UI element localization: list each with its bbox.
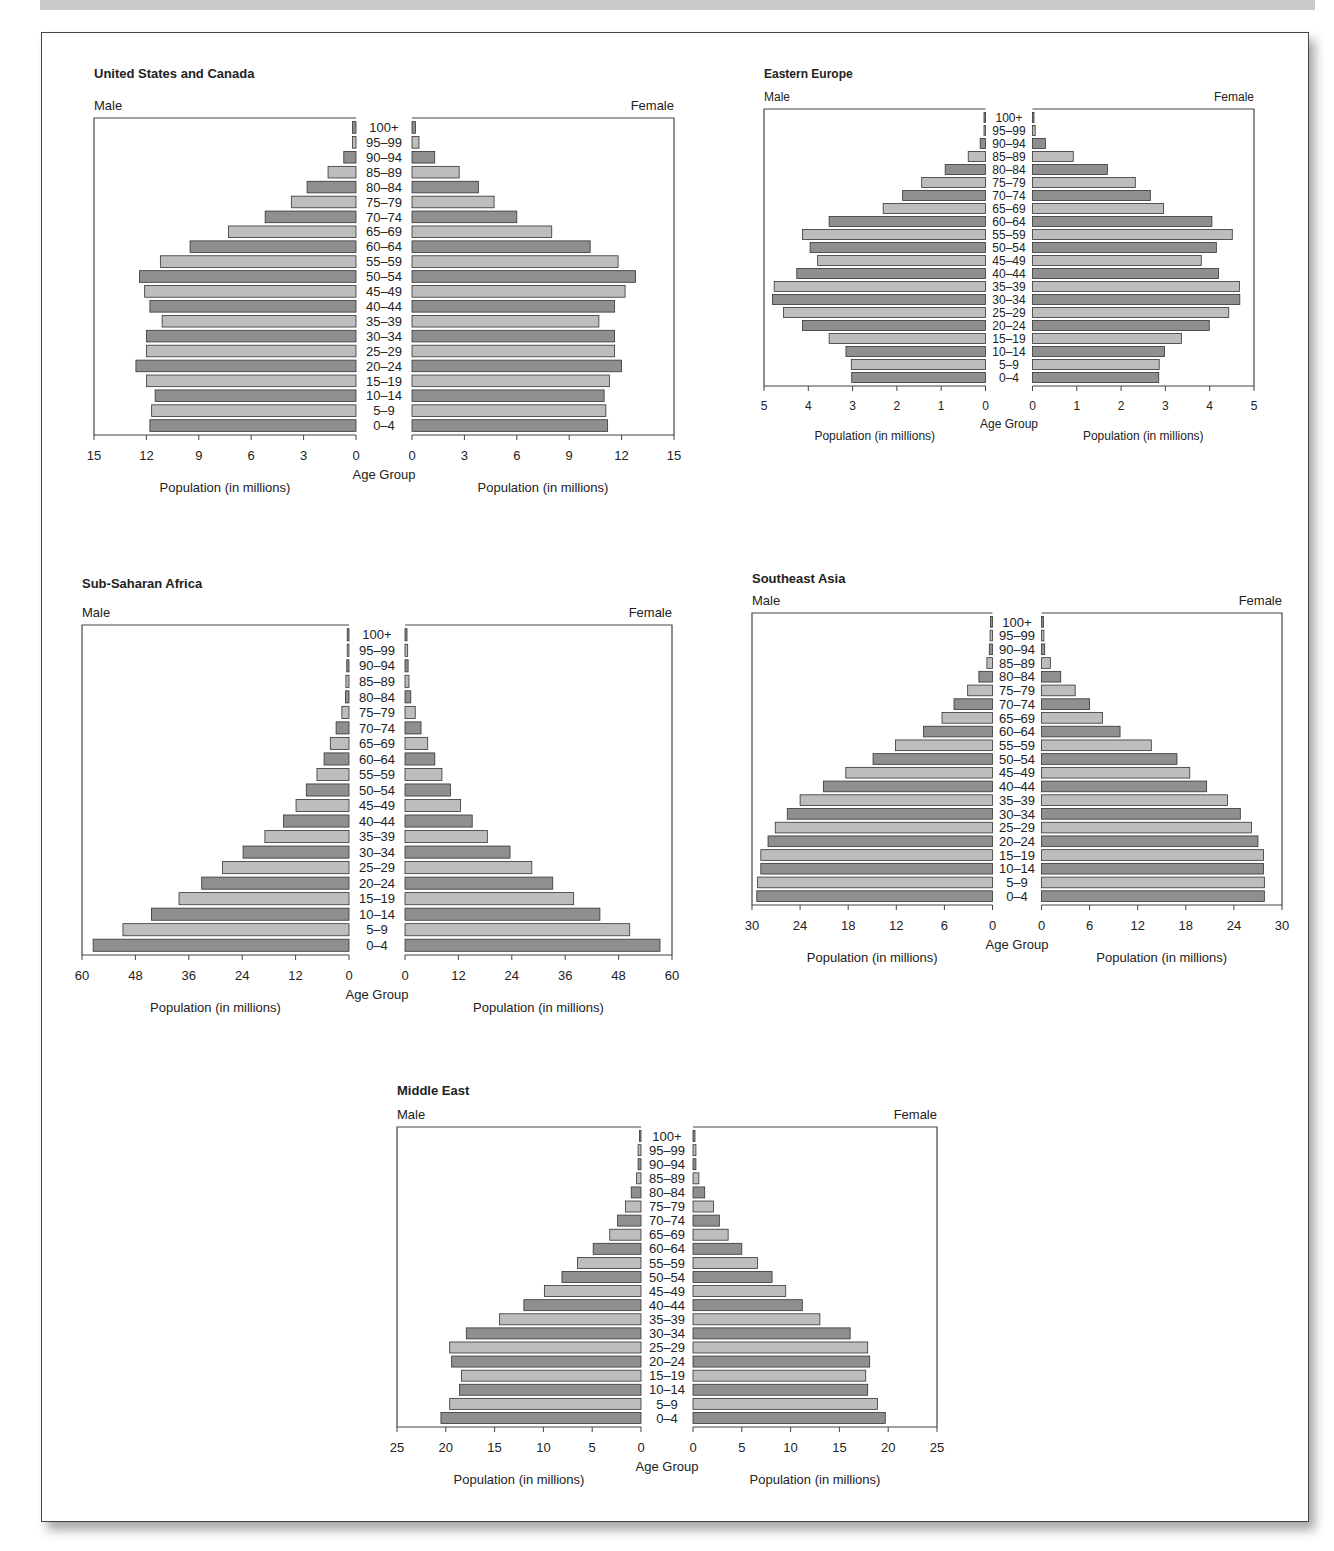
age-group-label: 40–44 [359,814,395,829]
female-bar [412,375,609,387]
tick-label: 3 [461,448,468,463]
age-group-label: 80–84 [366,180,402,195]
age-group-label: 35–39 [366,314,402,329]
female-bar [1042,795,1228,806]
male-bar [903,190,986,200]
age-group-label: 85–89 [649,1171,685,1186]
top-gray-band [40,0,1315,10]
male-bar [452,1356,641,1367]
age-group-label: 100+ [652,1129,681,1144]
age-group-label: 60–64 [366,239,402,254]
male-bar [150,300,356,312]
male-bar [317,768,349,780]
male-bar [787,809,992,820]
age-group-label: 25–29 [366,344,402,359]
tick-label: 0 [345,968,352,983]
age-group-label: 75–79 [366,195,402,210]
age-group-label: 100+ [369,120,398,135]
female-bar [1042,740,1152,751]
tick-label: 25 [390,1440,404,1455]
male-bar [353,137,356,149]
male-population-axis-label: Population (in millions) [807,950,938,965]
male-bar [307,181,356,193]
female-bar [405,660,408,672]
male-bar [291,196,356,208]
age-group-label: 55–59 [366,254,402,269]
tick-label: 4 [805,399,812,413]
male-bar [968,685,993,696]
tick-label: 24 [505,968,519,983]
age-group-label: 20–24 [359,876,395,891]
female-bar [693,1314,820,1325]
age-group-label: 65–69 [649,1227,685,1242]
female-bar [405,629,407,641]
chart-eastern-europe: Eastern EuropeMaleFemale100+95–9990–9485… [760,66,1260,446]
female-bar [412,271,636,283]
age-group-label: 50–54 [366,269,402,284]
male-bar [461,1370,641,1381]
tick-label: 12 [139,448,153,463]
age-group-label: 5–9 [999,358,1019,372]
age-group-label: 85–89 [992,150,1026,164]
male-bar [761,850,993,861]
age-group-label: 65–69 [992,202,1026,216]
age-group-label: 75–79 [992,176,1026,190]
female-label: Female [894,1107,937,1122]
male-bar [330,737,349,749]
chart-title: United States and Canada [94,66,255,81]
tick-label: 48 [611,968,625,983]
age-group-label: 20–24 [649,1354,685,1369]
male-bar [336,722,349,734]
male-bar [846,767,993,778]
age-group-label: 15–19 [992,332,1026,346]
male-bar [155,390,356,402]
female-bar [412,330,615,342]
age-group-label: 75–79 [649,1199,685,1214]
tick-label: 6 [1086,918,1093,933]
male-bar [544,1286,641,1297]
female-bar [405,768,442,780]
female-bar [1042,644,1045,655]
male-bar [883,203,985,213]
female-bar [693,1215,719,1226]
age-group-label: 25–29 [359,860,395,875]
female-bar [693,1342,868,1353]
female-bar [693,1328,850,1339]
male-bar [296,799,349,811]
female-bar [1042,863,1264,874]
age-group-label: 90–94 [992,137,1026,151]
female-bar [412,256,618,268]
female-bar [412,211,517,223]
tick-label: 2 [894,399,901,413]
tick-label: 6 [941,918,948,933]
female-bar [405,737,428,749]
age-group-label: 55–59 [649,1256,685,1271]
female-bar [405,815,472,827]
male-bar [466,1328,641,1339]
chart-sub-saharan-africa: Sub-Saharan AfricaMaleFemale100+95–9990–… [78,575,678,1025]
age-group-label: 60–64 [992,215,1026,229]
chart-middle-east: Middle EastMaleFemale100+95–9990–9485–89… [393,1082,943,1492]
male-bar [631,1187,641,1198]
female-bar [405,784,450,796]
female-label: Female [1239,593,1282,608]
female-bar [412,226,552,238]
female-bar [1033,138,1046,148]
female-bar [1042,699,1090,710]
female-bar [1042,850,1264,861]
tick-label: 10 [536,1440,550,1455]
female-population-axis-label: Population (in millions) [478,480,609,495]
age-group-label: 10–14 [992,345,1026,359]
age-group-label: 15–19 [366,374,402,389]
female-bar [693,1145,696,1156]
age-group-label: 35–39 [649,1312,685,1327]
male-bar [625,1201,641,1212]
female-bar [1033,216,1212,226]
female-bar [1033,125,1036,135]
female-bar [412,315,599,327]
female-bar [405,691,411,703]
female-bar [1033,320,1210,330]
tick-label: 6 [248,448,255,463]
female-bar [1042,809,1241,820]
female-bar [405,722,421,734]
